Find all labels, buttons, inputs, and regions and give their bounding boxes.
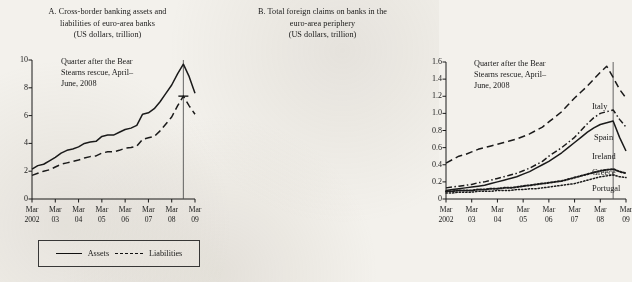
- x-tick-label: Mar07: [142, 205, 155, 224]
- y-tick-label: 2: [6, 167, 28, 175]
- panel-b-title-line2: euro-area periphery: [206, 18, 439, 30]
- panel-a-title-line2: liabilities of euro-area banks: [0, 18, 215, 30]
- series-label-greece: Greece: [592, 168, 616, 177]
- panel-a-title: A. Cross-border banking assets and liabi…: [0, 6, 215, 41]
- x-tick-label: Mar04: [491, 205, 504, 224]
- x-tick-year: 05: [517, 215, 530, 225]
- x-tick-month: Mar: [96, 205, 109, 215]
- x-tick-label: Mar07: [568, 205, 581, 224]
- panel-b-title-line1: B. Total foreign claims on banks in the: [206, 6, 439, 18]
- x-tick-year: 06: [543, 215, 556, 225]
- x-tick-year: 05: [96, 215, 109, 225]
- y-tick-label: 10: [6, 56, 28, 64]
- legend-liabilities-label: Liabilities: [149, 249, 182, 258]
- x-tick-year: 03: [465, 215, 478, 225]
- panel-b-title: B. Total foreign claims on banks in the …: [206, 6, 439, 41]
- x-tick-label: Mar05: [517, 205, 530, 224]
- x-tick-month: Mar: [594, 205, 607, 215]
- x-tick-month: Mar: [165, 205, 178, 215]
- x-tick-month: Mar: [517, 205, 530, 215]
- x-tick-year: 08: [594, 215, 607, 225]
- series-label-ireland: Ireland: [592, 152, 616, 161]
- x-tick-year: 04: [72, 215, 85, 225]
- x-tick-label: Mar04: [72, 205, 85, 224]
- y-tick-label: 1.0: [420, 109, 442, 117]
- x-tick-month: Mar: [491, 205, 504, 215]
- x-tick-month: Mar: [72, 205, 85, 215]
- x-tick-year: 08: [165, 215, 178, 225]
- x-tick-year: 06: [119, 215, 132, 225]
- x-tick-label: Mar09: [189, 205, 202, 224]
- panel-b-plot-area: [446, 62, 626, 199]
- x-tick-year: 07: [142, 215, 155, 225]
- x-tick-label: Mar03: [49, 205, 62, 224]
- y-tick-label: 0.2: [420, 178, 442, 186]
- x-tick-month: Mar: [543, 205, 556, 215]
- series-label-italy: Italy: [592, 102, 607, 111]
- x-tick-label: Mar05: [96, 205, 109, 224]
- x-tick-month: Mar: [438, 205, 453, 215]
- legend-assets-label: Assets: [88, 249, 109, 258]
- y-tick-label: 0.8: [420, 127, 442, 135]
- panel-a: A. Cross-border banking assets and liabi…: [0, 0, 215, 282]
- x-tick-month: Mar: [142, 205, 155, 215]
- x-tick-month: Mar: [24, 205, 39, 215]
- y-tick-label: 8: [6, 84, 28, 92]
- x-tick-year: 03: [49, 215, 62, 225]
- x-tick-year: 2002: [24, 215, 39, 225]
- panel-b: B. Total foreign claims on banks in the …: [206, 0, 439, 282]
- legend-liabilities-swatch: [115, 253, 143, 254]
- x-tick-month: Mar: [119, 205, 132, 215]
- x-tick-month: Mar: [568, 205, 581, 215]
- series-label-portugal: Portugal: [592, 184, 620, 193]
- y-tick-label: 0.6: [420, 144, 442, 152]
- x-tick-year: 09: [189, 215, 202, 225]
- x-tick-label: Mar06: [119, 205, 132, 224]
- x-tick-label: Mar2002: [438, 205, 453, 224]
- x-tick-label: Mar08: [594, 205, 607, 224]
- x-tick-year: 04: [491, 215, 504, 225]
- series-line-italy: [446, 66, 626, 163]
- x-tick-label: Mar06: [543, 205, 556, 224]
- panel-a-plot-area: [32, 60, 195, 199]
- y-tick-label: 0.4: [420, 161, 442, 169]
- x-tick-month: Mar: [189, 205, 202, 215]
- series-label-spain: Spain: [594, 133, 613, 142]
- panel-a-title-line1: A. Cross-border banking assets and: [0, 6, 215, 18]
- panel-b-title-line3: (US dollars, trillion): [206, 29, 439, 41]
- y-tick-label: 1.4: [420, 75, 442, 83]
- y-tick-label: 0: [6, 195, 28, 203]
- series-line-assets: [32, 64, 195, 169]
- legend-assets-swatch: [56, 253, 82, 254]
- x-tick-month: Mar: [620, 205, 632, 215]
- x-tick-month: Mar: [49, 205, 62, 215]
- y-tick-label: 0: [420, 195, 442, 203]
- panel-a-legend: Assets Liabilities: [38, 240, 200, 267]
- x-tick-label: Mar08: [165, 205, 178, 224]
- y-tick-label: 4: [6, 139, 28, 147]
- panel-b-svg: [446, 62, 626, 199]
- x-tick-label: Mar2002: [24, 205, 39, 224]
- y-tick-label: 1.2: [420, 92, 442, 100]
- x-tick-label: Mar09: [620, 205, 632, 224]
- x-tick-year: 09: [620, 215, 632, 225]
- y-tick-label: 1.6: [420, 58, 442, 66]
- x-tick-label: Mar03: [465, 205, 478, 224]
- y-tick-label: 6: [6, 112, 28, 120]
- x-tick-year: 2002: [438, 215, 453, 225]
- x-tick-year: 07: [568, 215, 581, 225]
- panel-a-title-line3: (US dollars, trillion): [0, 29, 215, 41]
- panel-a-svg: [32, 60, 195, 199]
- x-tick-month: Mar: [465, 205, 478, 215]
